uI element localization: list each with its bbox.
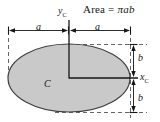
- dim-a-right-arrow-start: [70, 28, 76, 33]
- area-formula-prefix: Area =: [83, 3, 117, 15]
- area-formula-b: b: [129, 3, 135, 15]
- dimension-b-top-label: b: [138, 53, 143, 63]
- x-axis-label: xC: [140, 72, 149, 85]
- dim-b-bottom-arrow-end: [131, 106, 135, 112]
- dim-b-bottom-arrow-start: [131, 79, 135, 85]
- dim-a-left-arrow-end: [62, 28, 68, 33]
- ellipse-centroid-figure: Area = πab yC xC C a a b b: [0, 0, 160, 122]
- dimension-a-right: [71, 27, 131, 35]
- dim-b-top-arrow-end: [131, 71, 135, 77]
- x-axis-label-subscript: C: [144, 77, 148, 84]
- figure-canvas: [0, 0, 160, 122]
- dim-b-top-arrow-start: [131, 45, 135, 51]
- y-axis-label-subscript: C: [62, 11, 66, 18]
- dimension-a-right-label: a: [95, 22, 100, 32]
- dimension-b-bottom-label: b: [138, 93, 143, 103]
- area-formula-label: Area = πab: [83, 3, 135, 15]
- dimension-a-left-label: a: [36, 22, 41, 32]
- dim-a-right-arrow-end: [124, 28, 130, 33]
- centroid-label: C: [44, 79, 51, 89]
- dim-a-left-arrow-start: [9, 28, 15, 33]
- y-axis-label: yC: [58, 6, 67, 19]
